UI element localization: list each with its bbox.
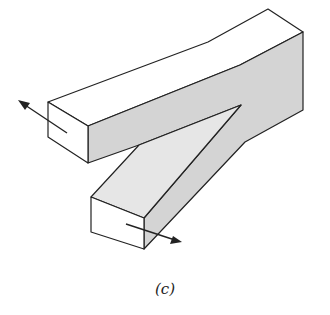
y-bar-diagram [0, 0, 330, 315]
figure-caption: (c) [0, 280, 330, 298]
